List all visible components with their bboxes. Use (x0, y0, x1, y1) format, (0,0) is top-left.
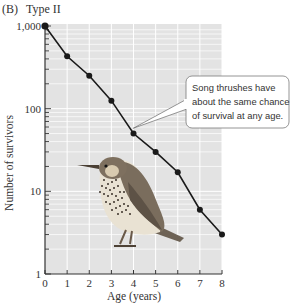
data-point (219, 232, 225, 238)
x-tick-label: 1 (64, 277, 70, 289)
data-point (153, 149, 159, 155)
data-point (175, 169, 181, 175)
y-tick-label: 1 (36, 268, 42, 280)
callout-line-1: Song thrushes have (192, 82, 275, 93)
y-tick-label: 1,000 (16, 20, 41, 32)
x-tick-label: 2 (87, 277, 93, 289)
x-tick-label: 8 (219, 277, 225, 289)
y-tick-label: 10 (30, 185, 42, 197)
x-tick-label: 0 (42, 277, 48, 289)
data-point (86, 73, 92, 79)
x-tick-label: 3 (109, 277, 115, 289)
x-tick-label: 6 (175, 277, 181, 289)
survivorship-chart: (B) Type II 012345678 1101001,000 Age (y… (0, 0, 291, 308)
data-point (131, 131, 137, 137)
x-tick-label: 7 (197, 277, 203, 289)
x-tick-labels: 012345678 (42, 277, 225, 289)
data-point (64, 53, 70, 59)
y-axis-label: Number of survivors (3, 115, 15, 211)
callout-line-2: about the same chance (192, 96, 289, 107)
callout-line-3: of survival at any age. (192, 110, 283, 121)
data-point (41, 22, 48, 29)
panel-label: (B) (2, 2, 18, 16)
x-tick-label: 4 (131, 277, 137, 289)
chart-title: Type II (26, 2, 61, 16)
y-tick-labels: 1101001,000 (16, 20, 41, 280)
data-point (108, 98, 114, 104)
x-axis-label: Age (years) (107, 290, 161, 303)
data-point (197, 207, 203, 213)
y-tick-label: 100 (25, 103, 42, 115)
x-tick-label: 5 (153, 277, 159, 289)
